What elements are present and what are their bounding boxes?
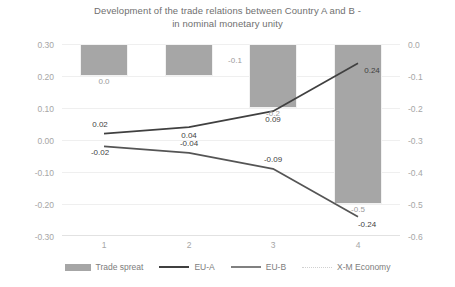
- chart-title-line-2: in nominal monetary unity: [0, 17, 455, 30]
- y-axis-right-tick-3: -0.3: [408, 136, 448, 146]
- eu-a-label-1: 0.02: [80, 120, 120, 129]
- y-axis-right-tick-1: -0.1: [408, 72, 448, 82]
- dotted-line-swatch-icon: [302, 267, 332, 268]
- legend-label-eu-a: EU-A: [194, 262, 214, 272]
- chart-title-line-1: Development of the trade relations betwe…: [0, 4, 455, 17]
- bar-label-1: 0.0: [84, 77, 124, 86]
- y-axis-right-tick-4: -0.4: [408, 168, 448, 178]
- y-axis-left-tick-2: 0.10: [12, 104, 54, 114]
- plot-area: 0.0 -0.1 -0.2 -0.5 0.02 0.04 0.09 0.24 -…: [62, 44, 400, 236]
- chart-legend: Trade spreat EU-A EU-B X-M Economy: [0, 262, 455, 272]
- y-axis-left-tick-6: -0.30: [12, 232, 54, 242]
- line-eu-b[interactable]: [104, 146, 358, 216]
- legend-label-trade-spreat: Trade spreat: [96, 262, 144, 272]
- x-axis-tick-4: 4: [328, 240, 388, 250]
- eu-b-label-3: -0.09: [253, 155, 293, 164]
- chart-title: Development of the trade relations betwe…: [0, 4, 455, 30]
- chart-container: Development of the trade relations betwe…: [0, 0, 455, 287]
- bar-label-2: -0.1: [215, 56, 255, 65]
- eu-a-label-3: 0.09: [253, 115, 293, 124]
- legend-item-xm-economy[interactable]: X-M Economy: [302, 262, 390, 272]
- y-axis-left-tick-3: 0.00: [12, 136, 54, 146]
- legend-label-eu-b: EU-B: [266, 262, 286, 272]
- eu-b-label-2: -0.04: [169, 139, 209, 148]
- legend-item-trade-spreat[interactable]: Trade spreat: [65, 262, 144, 272]
- y-axis-right-tick-0: 0.0: [408, 40, 448, 50]
- y-axis-right-tick-6: -0.6: [408, 232, 448, 242]
- legend-label-xm-economy: X-M Economy: [337, 262, 390, 272]
- legend-item-eu-a[interactable]: EU-A: [159, 262, 214, 272]
- eu-b-label-4: -0.24: [347, 220, 387, 229]
- y-axis-left-tick-1: 0.20: [12, 72, 54, 82]
- legend-item-eu-b[interactable]: EU-B: [231, 262, 286, 272]
- line-eu-a[interactable]: [104, 63, 358, 133]
- x-axis-tick-1: 1: [74, 240, 134, 250]
- x-axis-tick-3: 3: [243, 240, 303, 250]
- eu-b-label-1: -0.02: [80, 148, 120, 157]
- y-axis-left-tick-5: -0.20: [12, 200, 54, 210]
- eu-a-label-4: 0.24: [352, 66, 392, 75]
- bar-label-4: -0.5: [338, 205, 378, 214]
- line-swatch-icon: [231, 266, 261, 268]
- line-swatch-icon: [159, 266, 189, 268]
- y-axis-left-tick-4: -0.10: [12, 168, 54, 178]
- y-axis-left-tick-0: 0.30: [12, 40, 54, 50]
- x-axis-tick-2: 2: [159, 240, 219, 250]
- y-axis-right-tick-5: -0.5: [408, 200, 448, 210]
- bar-swatch-icon: [65, 264, 91, 271]
- y-axis-right-tick-2: -0.2: [408, 104, 448, 114]
